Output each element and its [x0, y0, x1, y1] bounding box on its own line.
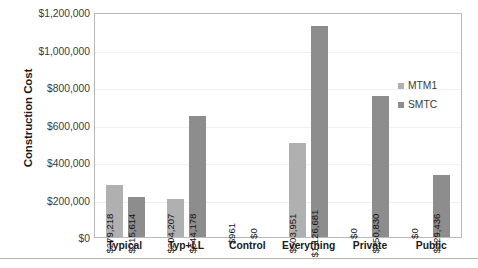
bar-slot: $329,436	[433, 14, 450, 237]
x-axis-category-label: Everything	[278, 240, 339, 251]
bar-group: $0$329,436	[400, 14, 461, 237]
bar-chart: Construction Cost $0$200,000$400,000$600…	[0, 0, 478, 268]
x-axis-category-label: Control	[217, 240, 278, 251]
legend-swatch-icon	[398, 102, 404, 108]
legend-label: SMTC	[408, 99, 437, 110]
bar-slot: $961	[228, 14, 245, 237]
bar[interactable]: $215,614	[128, 197, 145, 237]
bar-slot: $215,614	[128, 14, 145, 237]
bar[interactable]: $279,218	[106, 185, 123, 237]
bar-group: $204,207$644,178	[156, 14, 217, 237]
y-axis-tick-label: $800,000	[14, 83, 90, 94]
bar[interactable]: $503,951	[289, 143, 306, 237]
y-axis-tick-label: $400,000	[14, 158, 90, 169]
y-axis-tick-label: $1,200,000	[14, 8, 90, 19]
bar-slot: $0	[411, 14, 428, 237]
bar[interactable]: $204,207	[167, 199, 184, 237]
bar-group: $0$750,830	[339, 14, 400, 237]
legend-swatch-icon	[398, 83, 404, 89]
y-axis-tick-label: $200,000	[14, 195, 90, 206]
bar-slot: $1,126,681	[311, 14, 328, 237]
bar-slot: $0	[350, 14, 367, 237]
bar-slot: $503,951	[289, 14, 306, 237]
x-axis-category-label: Typical	[94, 240, 155, 251]
y-axis-tick-labels: $0$200,000$400,000$600,000$800,000$1,000…	[14, 13, 90, 238]
bar-value-label: $0	[349, 229, 359, 240]
bar[interactable]: $1,126,681	[311, 26, 328, 237]
chart-legend: MTM1SMTC	[398, 76, 464, 114]
x-axis-category-label: Typ+LL	[155, 240, 216, 251]
y-axis-tick-label: $1,000,000	[14, 45, 90, 56]
bar-slot: $0	[250, 14, 267, 237]
plot-area: $279,218$215,614$204,207$644,178$961$0$5…	[94, 13, 462, 238]
bar-value-label: $0	[249, 229, 259, 240]
bar-value-label: $0	[410, 229, 420, 240]
y-axis-tick-label: $600,000	[14, 120, 90, 131]
x-axis-category-label: Public	[401, 240, 462, 251]
bottom-divider	[0, 258, 478, 259]
legend-label: MTM1	[408, 80, 437, 91]
legend-item[interactable]: SMTC	[398, 95, 464, 114]
bar[interactable]: $644,178	[189, 116, 206, 237]
y-axis-tick-label: $0	[14, 233, 90, 244]
bar[interactable]: $329,436	[433, 175, 450, 237]
bar[interactable]: $750,830	[372, 96, 389, 237]
bar-slot: $204,207	[167, 14, 184, 237]
bar-group: $279,218$215,614	[95, 14, 156, 237]
x-axis-category-labels: TypicalTyp+LLControlEverythingPrivatePub…	[94, 240, 462, 251]
x-axis-category-label: Private	[339, 240, 400, 251]
bar-slot: $750,830	[372, 14, 389, 237]
bar-slot: $279,218	[106, 14, 123, 237]
bar-group: $503,951$1,126,681	[278, 14, 339, 237]
legend-item[interactable]: MTM1	[398, 76, 464, 95]
bar-group: $961$0	[217, 14, 278, 237]
bar-groups: $279,218$215,614$204,207$644,178$961$0$5…	[95, 14, 461, 237]
bar-slot: $644,178	[189, 14, 206, 237]
